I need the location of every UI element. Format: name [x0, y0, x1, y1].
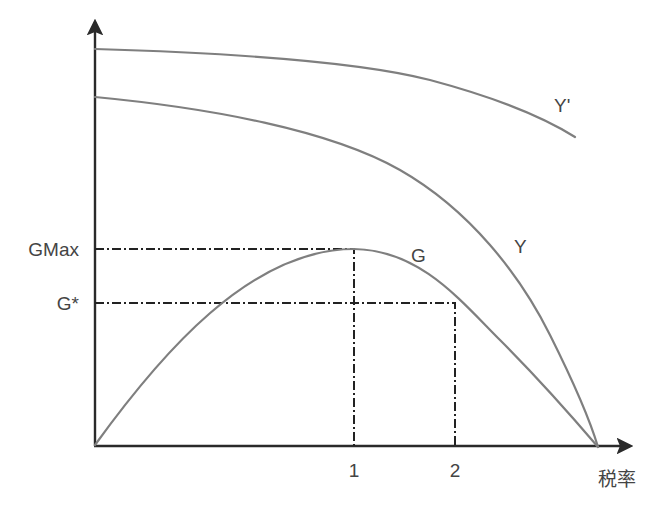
gmax-guide-line — [95, 249, 354, 446]
x-tick-1-label: 1 — [349, 460, 360, 481]
x-tick-2-label: 2 — [450, 460, 461, 481]
laffer-curve-chart: Y' Y G GMax G* 1 2 税率 — [0, 0, 655, 505]
y-prime-curve — [95, 49, 575, 137]
g-curve — [95, 249, 598, 447]
y-label: Y — [514, 236, 527, 257]
x-axis-title: 税率 — [598, 468, 636, 490]
gmax-tick-label: GMax — [28, 239, 79, 260]
y-prime-label: Y' — [554, 95, 570, 116]
y-curve — [95, 97, 598, 447]
gstar-tick-label: G* — [57, 293, 80, 314]
g-label: G — [411, 245, 426, 266]
